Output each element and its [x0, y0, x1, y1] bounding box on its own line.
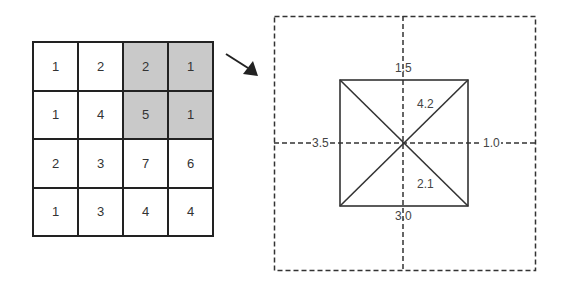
label-left: 3.5 [311, 137, 330, 149]
label-top: 1.5 [394, 62, 413, 74]
label-diag-upper: 4.2 [416, 98, 435, 110]
label-diag-lower: 2.1 [416, 178, 435, 190]
label-right: 1.0 [482, 137, 501, 149]
label-bottom: 3.0 [394, 210, 413, 222]
diagram-graphics [0, 0, 565, 284]
arrow-icon [226, 54, 258, 76]
